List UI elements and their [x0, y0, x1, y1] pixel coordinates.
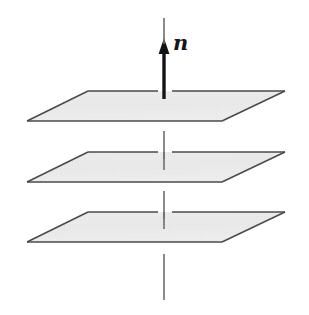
figure-canvas: n: [0, 0, 309, 315]
bottom-plane-surface-shade: [27, 212, 285, 242]
normal-vector-label: n: [173, 32, 188, 53]
middle-plane: [27, 152, 285, 182]
normal-vector-arrow: [159, 18, 170, 99]
plane-stack-diagram: [0, 0, 309, 315]
bottom-plane: [27, 212, 285, 242]
top-plane: [27, 91, 285, 121]
middle-plane-surface-shade: [27, 152, 285, 182]
top-plane-surface-shade: [27, 91, 285, 121]
